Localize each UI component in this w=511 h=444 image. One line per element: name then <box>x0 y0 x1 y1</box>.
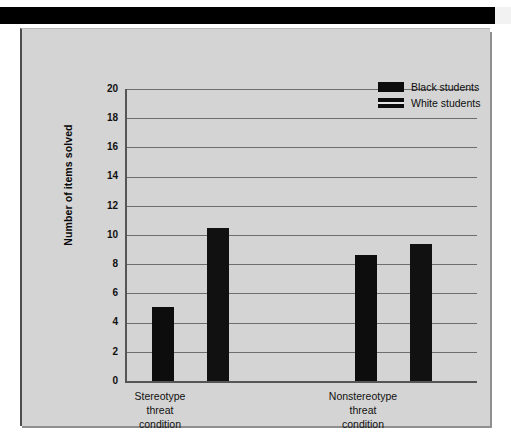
y-axis-title: Number of items solved <box>62 105 74 265</box>
x-group-label-nonstereotype: Nonstereotype threat condition <box>288 389 438 431</box>
legend-item-black-students: Black students <box>378 80 500 94</box>
y-tick-2: 2 <box>112 347 118 357</box>
y-tick-18: 18 <box>107 113 118 123</box>
x-group-label-stereotype-line3: condition <box>85 417 235 431</box>
page-header-band <box>0 7 495 24</box>
y-axis-tick-labels: 20 18 16 14 12 10 8 6 4 2 0 <box>94 89 118 381</box>
x-group-label-stereotype-line2: threat <box>85 403 235 417</box>
legend-swatch-white-students-icon <box>378 98 404 108</box>
bar-black-students-stereotype <box>152 307 174 381</box>
plot-area <box>125 89 477 381</box>
gridline-10 <box>127 235 477 236</box>
y-tick-0: 0 <box>112 376 118 386</box>
gridline-18 <box>127 118 477 119</box>
chart-figure-panel: Number of items solved 20 18 16 14 12 10… <box>20 28 490 426</box>
x-group-label-nonstereotype-line2: threat <box>288 403 438 417</box>
x-group-label-nonstereotype-line3: condition <box>288 417 438 431</box>
x-group-label-nonstereotype-line1: Nonstereotype <box>288 389 438 403</box>
y-tick-16: 16 <box>107 142 118 152</box>
x-group-label-stereotype: Stereotype threat condition <box>85 389 235 431</box>
bar-white-students-nonstereotype <box>410 244 432 381</box>
y-tick-10: 10 <box>107 230 118 240</box>
gridline-16 <box>127 147 477 148</box>
page-header-band-tail <box>495 7 511 24</box>
legend-swatch-black-students-icon <box>378 82 404 92</box>
y-tick-6: 6 <box>112 288 118 298</box>
bar-black-students-nonstereotype <box>355 255 377 381</box>
gridline-12 <box>127 206 477 207</box>
y-tick-20: 20 <box>107 84 118 94</box>
legend-label-black-students: Black students <box>411 81 479 93</box>
legend-item-white-students: White students <box>378 96 500 110</box>
y-tick-14: 14 <box>107 171 118 181</box>
y-tick-4: 4 <box>112 317 118 327</box>
x-group-label-stereotype-line1: Stereotype <box>85 389 235 403</box>
bar-white-students-stereotype <box>207 228 229 381</box>
y-tick-8: 8 <box>112 259 118 269</box>
gridline-14 <box>127 177 477 178</box>
x-axis-line <box>125 381 477 383</box>
figure-page: Number of items solved 20 18 16 14 12 10… <box>0 0 511 444</box>
legend-label-white-students: White students <box>411 97 480 109</box>
y-tick-12: 12 <box>107 201 118 211</box>
chart-legend: Black students White students <box>378 80 500 112</box>
